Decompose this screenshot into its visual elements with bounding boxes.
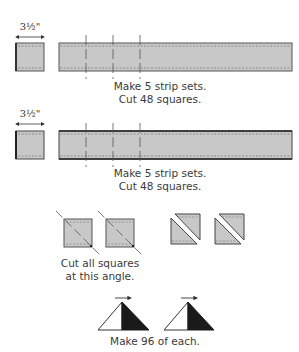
- row-2-caption: Make 5 strip sets. Cut 48 squares.: [110, 167, 210, 193]
- row-1-dimension-label: 3½": [15, 21, 45, 32]
- row-3-caption-line2: at this angle.: [50, 270, 150, 283]
- row-2-single-square: [16, 131, 44, 159]
- row-1-caption-line2: Cut 48 squares.: [110, 93, 210, 106]
- row-2-caption-line2: Cut 48 squares.: [110, 180, 210, 193]
- row-1-caption: Make 5 strip sets. Cut 48 squares.: [110, 80, 210, 106]
- row-1-single-square: [16, 43, 44, 71]
- row-1-strip-set: [59, 35, 292, 79]
- row-2-dimension-label: 3½": [15, 108, 45, 119]
- row-1-caption-line1: Make 5 strip sets.: [110, 80, 210, 93]
- row-3-caption-line1: Cut all squares: [50, 257, 150, 270]
- row-2-strip-set: [59, 123, 292, 167]
- row-3-caption: Cut all squares at this angle.: [50, 257, 150, 283]
- diagonal-cut-square-2: [98, 211, 142, 255]
- row-4-caption-line1: Make 96 of each.: [100, 335, 210, 348]
- split-square-2: [215, 214, 244, 244]
- diagonal-cut-square-1: [56, 211, 100, 255]
- split-square-1: [171, 214, 200, 244]
- row-2-caption-line1: Make 5 strip sets.: [110, 167, 210, 180]
- row-4-caption: Make 96 of each.: [100, 335, 210, 348]
- triangle-unit-1: [98, 298, 149, 330]
- triangle-unit-2: [164, 298, 214, 330]
